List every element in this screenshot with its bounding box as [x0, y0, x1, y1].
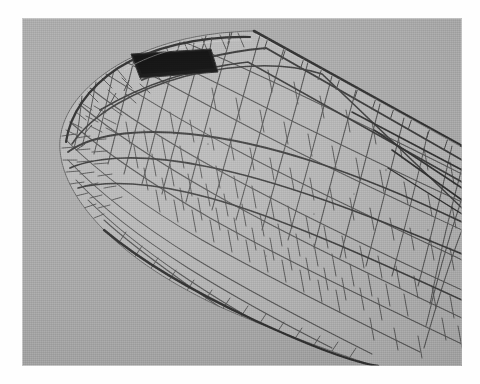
page: Grayscale macro photograph of the apical…	[0, 0, 480, 384]
wing-photograph: Grayscale macro photograph of the apical…	[22, 18, 462, 366]
wing-illustration	[22, 18, 462, 366]
